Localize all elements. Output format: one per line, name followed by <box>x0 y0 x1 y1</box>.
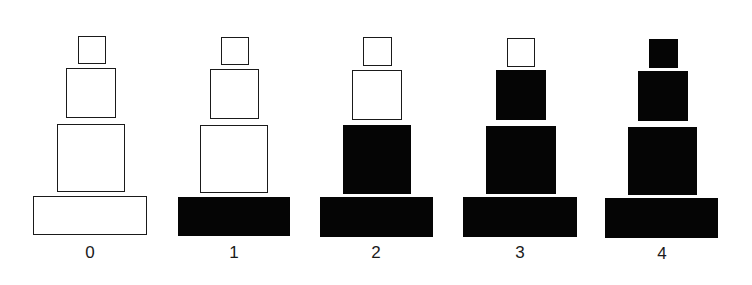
tower-4-block-lower <box>628 127 697 195</box>
tower-4-label: 4 <box>642 244 682 264</box>
tower-4: 4 <box>0 0 752 285</box>
tower-4-block-top <box>649 39 678 68</box>
tower-4-block-upper <box>638 71 688 121</box>
tower-4-block-base <box>605 198 718 238</box>
